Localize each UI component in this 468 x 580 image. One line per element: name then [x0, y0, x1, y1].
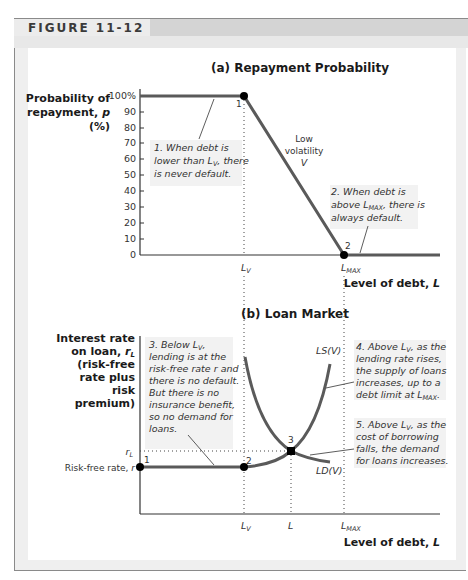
ytick-40: 40 — [124, 185, 136, 196]
panel-b-point-3 — [287, 447, 295, 455]
panel-a: (a) Repayment Probability Probability of… — [26, 61, 440, 290]
ytick-0: 0 — [130, 249, 136, 260]
demand-label: LD(V) — [316, 465, 343, 476]
ytick-80: 80 — [124, 122, 136, 133]
panel-a-title: (a) Repayment Probability — [211, 61, 389, 75]
panel-a-xtick-lv: LV — [241, 262, 251, 275]
note-3-line7: so no demand for — [149, 411, 234, 422]
curve-label-line3: V — [301, 157, 309, 168]
panel-b-ylabel-line2: on loan, rL — [71, 345, 135, 359]
panel-a-ylabel-line3: (%) — [89, 120, 110, 133]
supply-label: LS(V) — [316, 345, 341, 356]
note-5-line2: cost of borrowing — [356, 431, 439, 442]
ytick-100: 100% — [109, 90, 136, 101]
ytick-20: 20 — [124, 217, 136, 228]
note-4-line2: lending rate rises, — [356, 353, 442, 364]
figure-chart: (a) Repayment Probability Probability of… — [0, 0, 468, 580]
note-3-line3: risk-free rate r and — [149, 363, 239, 374]
panel-b-ylabel-line3: (risk-free — [77, 358, 135, 371]
note-1-line3: is never default. — [154, 168, 231, 179]
note-3-line8: loans. — [149, 423, 177, 434]
panel-b-point-1 — [136, 463, 144, 471]
note-2-leader — [360, 226, 368, 253]
panel-b-point-2-label: 2 — [246, 456, 252, 466]
panel-b-ylabel-line1: Interest rate — [56, 332, 135, 345]
curve-label-line1: Low — [295, 134, 313, 144]
note-3-line5: But there is no — [149, 387, 219, 398]
note-5-line3: falls, the demand — [356, 443, 440, 454]
note-3-line4: there is no default. — [149, 375, 239, 386]
riskfree-label: Risk-free rate, r — [65, 463, 137, 473]
panel-b-xlabel: Level of debt, L — [344, 536, 440, 549]
note-4-leader — [326, 382, 354, 388]
panel-b-ylabel-line4: rate plus — [80, 371, 136, 384]
panel-a-yticks: 100% 90 80 70 60 50 40 30 20 10 0 — [109, 90, 144, 260]
panel-b: (b) Loan Market Interest rate on loan, r… — [56, 307, 448, 549]
ytick-10: 10 — [124, 233, 136, 244]
ytick-30: 30 — [124, 201, 136, 212]
panel-b-title: (b) Loan Market — [241, 307, 349, 321]
ytick-70: 70 — [124, 137, 136, 148]
panel-b-ylabel-line6: premium) — [75, 397, 135, 410]
note-3-line2: lending is at the — [149, 351, 226, 362]
ytick-90: 90 — [124, 106, 136, 117]
note-4-line4: increases, up to a — [356, 377, 441, 388]
panel-a-point-2 — [340, 251, 348, 259]
ytick-60: 60 — [124, 153, 136, 164]
note-5-line4: for loans increases. — [356, 455, 449, 466]
panel-a-ylabel-line2: repayment, p — [27, 106, 110, 119]
panel-b-xtick-l: L — [288, 520, 293, 531]
note-4-line3: the supply of loans — [356, 365, 446, 376]
panel-a-xlabel: Level of debt, L — [344, 277, 440, 290]
panel-a-point-2-label: 2 — [345, 241, 351, 251]
panel-b-xtick-lmax: LMAX — [341, 520, 361, 533]
panel-a-ylabel-line1: Probability of — [26, 92, 110, 105]
panel-b-ylabel-line5: risk — [112, 384, 136, 397]
panel-b-point-1-label: 1 — [144, 455, 150, 465]
rl-label: rL — [125, 446, 133, 459]
curve-label-line2: volatility — [285, 146, 324, 156]
note-5-leader — [310, 449, 354, 455]
note-1-leader — [199, 99, 214, 139]
ytick-50: 50 — [124, 169, 136, 180]
panel-b-xtick-lv: LV — [241, 520, 251, 533]
note-3-line6: insurance benefit, — [149, 399, 235, 410]
panel-a-xtick-lmax: LMAX — [341, 262, 361, 275]
panel-a-point-1-label: 1 — [236, 99, 242, 109]
note-2-line3: always default. — [331, 212, 403, 223]
note-2-line1: 2. When debt is — [331, 186, 406, 197]
panel-b-point-3-label: 3 — [288, 435, 294, 445]
note-1-line1: 1. When debt is — [154, 142, 229, 153]
